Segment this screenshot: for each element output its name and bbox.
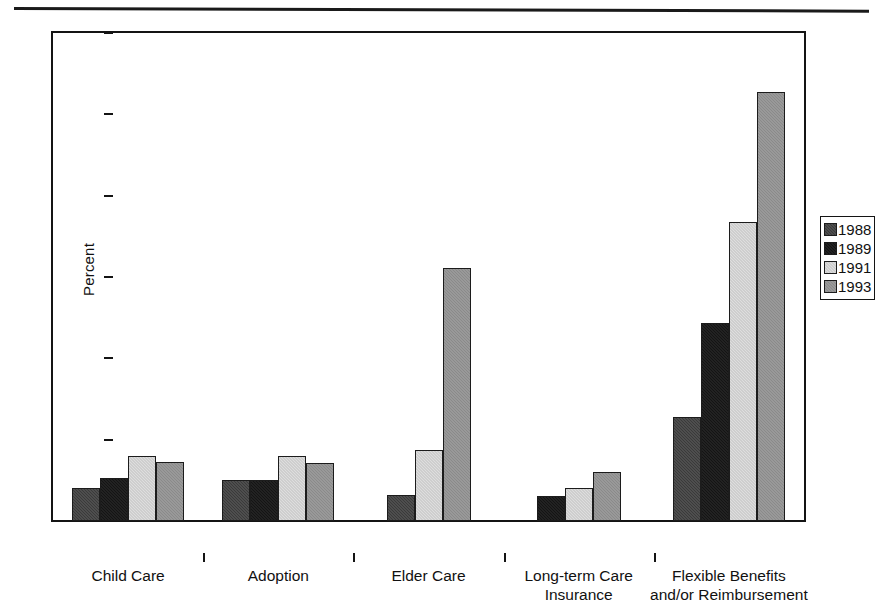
bar-1993	[757, 92, 785, 521]
legend-item-1988: 1988	[824, 220, 871, 239]
legend-label: 1993	[838, 279, 871, 294]
legend-swatch-icon	[824, 261, 837, 274]
y-tick-mark	[104, 113, 113, 115]
legend-item-1991: 1991	[824, 258, 871, 277]
legend-label: 1988	[838, 222, 871, 237]
bar-1988	[673, 417, 701, 521]
chart-legend: 1988198919911993	[820, 216, 875, 300]
x-tick-mark	[654, 553, 656, 562]
bar-1989	[537, 496, 565, 521]
bar-1988	[222, 480, 250, 521]
bar-1991	[415, 450, 443, 521]
x-axis-category-label: Flexible Benefits and/or Reimbursement	[634, 566, 824, 604]
x-tick-mark	[504, 553, 506, 562]
y-tick-mark	[104, 276, 113, 278]
x-tick-mark	[353, 553, 355, 562]
legend-item-1993: 1993	[824, 277, 871, 296]
bar-1989	[250, 480, 278, 521]
top-horizontal-rule	[14, 7, 869, 13]
bar-1988	[72, 488, 100, 521]
bar-1989	[100, 478, 128, 521]
legend-label: 1991	[838, 260, 871, 275]
y-tick-mark	[104, 32, 113, 34]
y-axis-label: Percent	[80, 210, 97, 330]
bar-1993	[306, 463, 334, 521]
bar-1991	[278, 456, 306, 521]
legend-swatch-icon	[824, 280, 837, 293]
bar-1993	[593, 472, 621, 521]
bar-1993	[443, 268, 471, 521]
legend-swatch-icon	[824, 242, 837, 255]
bar-1991	[729, 222, 757, 521]
legend-label: 1989	[838, 241, 871, 256]
legend-item-1989: 1989	[824, 239, 871, 258]
x-tick-mark	[203, 553, 205, 562]
plot-area: Percent 0102030405060 Child CareAdoption…	[53, 33, 804, 521]
legend-swatch-icon	[824, 223, 837, 236]
bar-1991	[128, 456, 156, 521]
y-tick-mark	[104, 439, 113, 441]
bar-1989	[701, 323, 729, 521]
bar-1991	[565, 488, 593, 521]
bar-1993	[156, 462, 184, 521]
y-tick-mark	[104, 195, 113, 197]
y-tick-mark	[104, 357, 113, 359]
bar-1988	[387, 495, 415, 521]
